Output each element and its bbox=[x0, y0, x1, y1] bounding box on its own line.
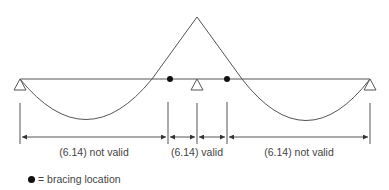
legend: = bracing location bbox=[28, 173, 121, 185]
right-segment-label: (6.14) not valid bbox=[264, 146, 333, 158]
bracing-dot-icon bbox=[167, 76, 173, 82]
middle-support-icon bbox=[191, 79, 203, 90]
left-segment-label: (6.14) not valid bbox=[59, 146, 128, 158]
moment-curve bbox=[20, 17, 370, 121]
bracing-dot-icon bbox=[224, 76, 230, 82]
dot-icon bbox=[28, 176, 35, 183]
beam-diagram bbox=[0, 0, 389, 190]
legend-text: = bracing location bbox=[38, 173, 121, 185]
middle-segment-label: (6.14) valid bbox=[171, 146, 223, 158]
